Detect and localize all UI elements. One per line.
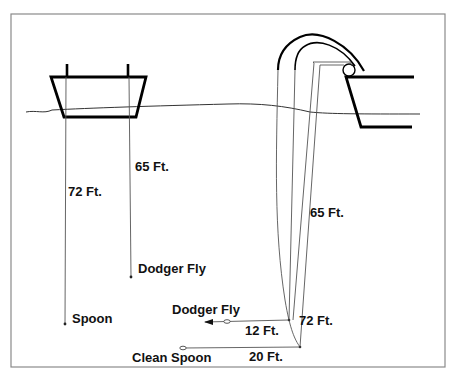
water-surface	[26, 104, 420, 114]
right-boat-hull	[346, 77, 414, 127]
right-boat	[343, 64, 414, 127]
left-label-dodger-fly: Dodger Fly	[138, 261, 207, 276]
left-spoon-line	[65, 77, 66, 324]
release-clip-72	[288, 319, 291, 322]
downrigger-pulley	[343, 64, 355, 76]
dodger-fly-lure	[204, 319, 213, 325]
right-label-12ft: 12 Ft.	[245, 323, 279, 338]
lead-20ft	[183, 347, 300, 348]
release-clip-20	[299, 346, 302, 349]
right-label-65ft: 65 Ft.	[310, 205, 344, 220]
trolling-diagram: 72 Ft. 65 Ft. Dodger Fly Spoon 65 Ft. 72…	[0, 0, 456, 386]
right-label-20ft: 20 Ft.	[249, 349, 283, 364]
line-outer-to-clean-spoon	[276, 70, 300, 347]
left-label-spoon: Spoon	[72, 311, 112, 326]
dodger-bead	[224, 320, 230, 324]
left-dodger-lure	[130, 276, 133, 279]
right-label-clean-spoon: Clean Spoon	[132, 350, 212, 365]
right-label-72ft: 72 Ft.	[299, 313, 333, 328]
left-boat-hull	[51, 77, 146, 117]
left-spoon-lure	[64, 323, 67, 326]
left-label-72ft: 72 Ft.	[68, 184, 102, 199]
lead-12ft	[205, 320, 289, 322]
right-label-dodger-fly: Dodger Fly	[172, 302, 241, 317]
left-label-65ft: 65 Ft.	[135, 159, 169, 174]
